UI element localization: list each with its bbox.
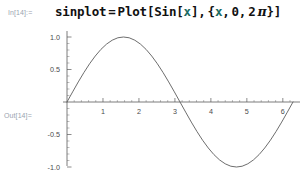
- input-cell-label: In[14]:=: [8, 9, 32, 16]
- token-function-plot: Plot: [118, 4, 147, 19]
- token-brace-close: }: [266, 4, 273, 19]
- x-axis-tick-labels: 123456: [101, 107, 285, 116]
- x-tick-label: 6: [281, 107, 285, 116]
- token-comma-3: ,: [239, 4, 246, 19]
- plot-svg: 123456 -1.0-0.50.51.0: [38, 26, 300, 180]
- token-function-sin: Sin: [154, 4, 176, 19]
- x-tick-label: 4: [209, 107, 213, 116]
- token-inner-bracket-open: [: [176, 4, 183, 19]
- x-axis-major-ticks: [103, 98, 283, 102]
- x-tick-label: 5: [245, 107, 249, 116]
- output-cell[interactable]: Out[14]= 123456 -1.0-0.50.51.0: [0, 26, 303, 180]
- x-tick-label: 3: [173, 107, 177, 116]
- token-comma-2: ,: [222, 4, 229, 19]
- y-tick-label: -1.0: [48, 163, 60, 172]
- token-coefficient: 2: [248, 4, 255, 19]
- token-bracket-close: ]: [274, 4, 281, 19]
- y-axis-tick-labels: -1.0-0.50.51.0: [48, 33, 60, 172]
- input-cell[interactable]: In[14]:= sinplot=Plot[Sin[x],{x,0,2π}]: [0, 0, 303, 26]
- input-expression[interactable]: sinplot=Plot[Sin[x],{x,0,2π}]: [55, 3, 281, 20]
- y-tick-label: 0.5: [50, 65, 60, 74]
- output-cell-label: Out[14]=: [4, 112, 32, 119]
- y-tick-label: -0.5: [48, 130, 60, 139]
- x-tick-label: 2: [137, 107, 141, 116]
- token-brace-open: {: [208, 4, 215, 19]
- y-tick-label: 1.0: [50, 33, 60, 42]
- token-assign-name: sinplot: [55, 4, 106, 19]
- token-range-lower: 0: [232, 4, 239, 19]
- x-tick-label: 1: [101, 107, 105, 116]
- token-comma-1: ,: [198, 4, 205, 19]
- token-variable-x-1: x: [184, 4, 191, 19]
- notebook-page: In[14]:= sinplot=Plot[Sin[x],{x,0,2π}] O…: [0, 0, 303, 180]
- token-equals: =: [108, 4, 115, 19]
- sine-plot-graphic[interactable]: 123456 -1.0-0.50.51.0: [38, 26, 300, 180]
